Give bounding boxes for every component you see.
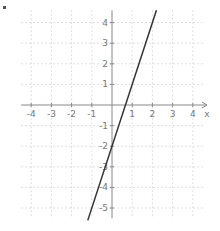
x-tick-label: 2 (150, 109, 156, 119)
corner-marker (3, 6, 6, 9)
tick-labels: -4-3-2-11234x4321-1-2-3-4-5 (27, 18, 211, 213)
line-graph: -4-3-2-11234x4321-1-2-3-4-5 (0, 0, 220, 231)
y-tick-label: 3 (102, 38, 108, 48)
y-tick-label: 2 (102, 59, 108, 69)
series-line (88, 10, 157, 220)
x-tick-label: -2 (67, 109, 76, 119)
y-tick-label: 1 (102, 79, 108, 89)
x-tick-label: 1 (129, 109, 135, 119)
y-tick-label: -5 (99, 203, 108, 213)
x-tick-label: -3 (47, 109, 56, 119)
x-tick-label: -4 (27, 109, 36, 119)
y-tick-label: -2 (99, 141, 108, 151)
data-series (88, 10, 157, 220)
y-tick-label: 4 (102, 18, 108, 28)
x-tick-label: 3 (170, 109, 176, 119)
y-tick-label: -1 (99, 121, 108, 131)
x-tick-label: -1 (87, 109, 96, 119)
x-axis-label: x (204, 109, 210, 119)
x-tick-label: 4 (190, 109, 196, 119)
